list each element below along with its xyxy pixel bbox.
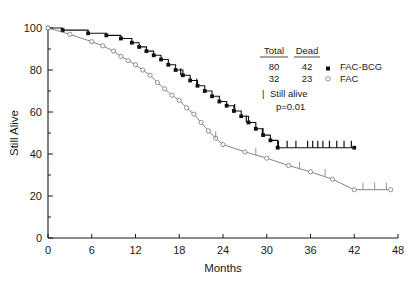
data-point-marker: [199, 120, 203, 124]
data-point-marker: [112, 49, 116, 53]
data-point-marker: [137, 45, 141, 49]
data-point-marker: [196, 84, 200, 88]
x-tick-label: 30: [261, 244, 273, 256]
data-point-marker: [287, 163, 291, 167]
x-tick-label: 0: [45, 244, 51, 256]
data-point-marker: [159, 58, 163, 62]
y-tick-label: 20: [30, 190, 42, 202]
chart-legend: Total Dead 80 42 FAC-BCG 32 23 FAC | Sti…: [260, 45, 382, 112]
data-point-marker: [254, 127, 258, 131]
data-point-marker: [141, 68, 145, 72]
x-tick-label: 12: [129, 244, 141, 256]
data-point-marker: [46, 26, 50, 30]
y-tick-label: 80: [30, 64, 42, 76]
data-point-marker: [155, 81, 159, 85]
data-point-marker: [133, 63, 137, 67]
x-axis-tick-labels: 0612182430364248: [45, 244, 404, 256]
data-point-marker: [174, 68, 178, 72]
data-point-marker: [221, 142, 225, 146]
y-tick-label: 0: [36, 232, 42, 244]
data-point-marker: [352, 146, 356, 150]
data-point-marker: [119, 54, 123, 58]
legend-marker-open-circle: [326, 77, 330, 81]
x-tick-label: 48: [392, 244, 404, 256]
data-point-marker: [265, 156, 269, 160]
x-tick-label: 6: [89, 244, 95, 256]
data-point-marker: [119, 37, 123, 41]
data-point-marker: [192, 112, 196, 116]
legend-marker-filled-square: [326, 67, 330, 71]
legend-column-dead: Dead: [296, 45, 319, 56]
legend-row-0-label: FAC-BCG: [340, 61, 382, 72]
data-point-marker: [101, 44, 105, 48]
data-point-marker: [217, 100, 221, 104]
legend-row-1-total: 32: [269, 73, 280, 84]
x-axis-ticks: [48, 234, 398, 238]
data-point-marker: [166, 63, 170, 67]
data-point-marker: [126, 58, 130, 62]
legend-row-1-dead: 23: [302, 73, 313, 84]
x-tick-label: 42: [348, 244, 360, 256]
data-point-marker: [206, 129, 210, 133]
data-point-marker: [148, 73, 152, 77]
curve-line: [48, 28, 391, 190]
data-point-marker: [181, 73, 185, 77]
y-tick-label: 60: [30, 106, 42, 118]
legend-censor-symbol: |: [262, 88, 264, 99]
data-point-marker: [352, 188, 356, 192]
y-axis-ticks: [48, 28, 53, 238]
data-point-marker: [104, 33, 108, 37]
data-point-marker: [247, 121, 251, 125]
legend-row-0-dead: 42: [302, 61, 313, 72]
legend-column-total: Total: [264, 45, 284, 56]
x-tick-label: 18: [173, 244, 185, 256]
data-point-marker: [68, 32, 72, 36]
y-tick-label: 100: [24, 22, 42, 34]
data-point-marker: [145, 49, 149, 53]
y-tick-label: 40: [30, 148, 42, 160]
data-point-marker: [130, 41, 134, 45]
legend-censor-note: Still alive: [270, 88, 308, 99]
data-point-marker: [243, 150, 247, 154]
x-axis-title: Months: [204, 262, 242, 274]
data-point-marker: [86, 31, 90, 35]
data-point-marker: [225, 104, 229, 108]
data-point-marker: [163, 87, 167, 91]
data-point-marker: [170, 93, 174, 97]
survival-chart: 020406080100 0612182430364248 Still Aliv…: [0, 0, 416, 288]
km-plot-svg: 020406080100 0612182430364248 Still Aliv…: [0, 0, 416, 288]
data-point-marker: [239, 114, 243, 118]
data-point-marker: [188, 79, 192, 83]
data-point-marker: [232, 109, 236, 113]
data-point-marker: [152, 53, 156, 57]
data-point-marker: [210, 94, 214, 98]
data-point-marker: [268, 138, 272, 142]
data-point-marker: [184, 106, 188, 110]
x-tick-label: 24: [217, 244, 229, 256]
data-point-marker: [203, 89, 207, 93]
data-point-marker: [177, 98, 181, 102]
data-point-marker: [276, 146, 280, 150]
data-point-marker: [308, 170, 312, 174]
x-tick-label: 36: [304, 244, 316, 256]
legend-pvalue: p=0.01: [276, 101, 305, 112]
data-point-marker: [389, 188, 393, 192]
y-axis-title: Still Alive: [8, 110, 20, 156]
y-axis-tick-labels: 020406080100: [24, 22, 42, 244]
data-point-marker: [261, 133, 265, 137]
series-curves: [46, 26, 393, 192]
data-point-marker: [90, 40, 94, 44]
legend-row-0-total: 80: [269, 61, 280, 72]
legend-row-1-label: FAC: [340, 73, 359, 84]
series-fac: [46, 26, 393, 192]
data-point-marker: [330, 177, 334, 181]
